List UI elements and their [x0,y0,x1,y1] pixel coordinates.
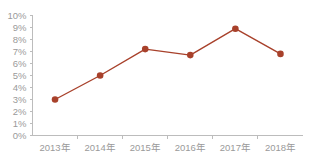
y-tick-label: 3% [13,94,27,105]
data-point-marker [142,46,149,53]
data-point-marker [232,25,239,32]
data-point-marker [187,52,194,59]
x-tick-label: 2016年 [175,142,206,153]
y-tick-label: 8% [13,34,27,45]
y-tick-label: 6% [13,58,27,69]
y-tick-label: 2% [13,106,27,117]
y-tick-label: 5% [13,70,27,81]
y-tick-label: 4% [13,82,27,93]
y-tick-label: 7% [13,46,27,57]
series-line [55,29,280,100]
x-tick-label: 2014年 [85,142,116,153]
line-chart: 0%1%2%3%4%5%6%7%8%9%10% 2013年2014年2015年2… [0,0,310,164]
y-tick-label: 10% [7,10,27,21]
y-tick-label: 1% [13,118,27,129]
x-axis-ticks: 2013年2014年2015年2016年2017年2018年 [39,136,296,153]
x-tick-label: 2018年 [265,142,296,153]
y-tick-label: 9% [13,22,27,33]
x-tick-label: 2013年 [39,142,70,153]
data-point-marker [277,51,284,58]
y-axis-ticks: 0%1%2%3%4%5%6%7%8%9%10% [7,10,32,141]
data-point-marker [52,96,59,103]
y-tick-label: 0% [13,130,27,141]
data-point-marker [97,72,104,79]
x-tick-label: 2015年 [130,142,161,153]
chart-canvas: 0%1%2%3%4%5%6%7%8%9%10% 2013年2014年2015年2… [0,0,310,164]
x-tick-label: 2017年 [220,142,251,153]
